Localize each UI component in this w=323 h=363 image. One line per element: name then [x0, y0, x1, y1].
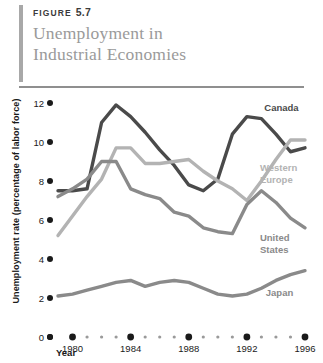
y-tick-label: 0 — [39, 332, 44, 343]
x-tick-dot-major — [243, 334, 250, 341]
x-tick-dot-minor — [274, 335, 277, 338]
x-tick-dot-minor — [202, 335, 205, 338]
series-labels: CanadaWesternEuropeUnitedStatesJapan — [260, 102, 299, 298]
series-label-canada: Canada — [264, 102, 299, 113]
y-axis-ticks: 024681012 — [33, 98, 53, 343]
figure-header: FIGURE5.7 Unemployment in Industrial Eco… — [0, 0, 323, 86]
x-tick-dot-minor — [115, 335, 118, 338]
x-tick-dot-minor — [216, 335, 219, 338]
x-tick-dot-minor — [100, 335, 103, 338]
y-tick-label: 10 — [33, 137, 44, 148]
series-label-united-states-line2: States — [260, 244, 289, 255]
x-tick-label: 1988 — [178, 343, 199, 354]
figure-title-line-1: Unemployment in — [33, 23, 313, 44]
series-group — [58, 105, 305, 296]
x-axis-ticks: 19801984198819921996 — [47, 334, 316, 354]
x-tick-dot-minor — [158, 335, 161, 338]
y-tick-dot — [47, 139, 53, 145]
figure-caption-line: FIGURE5.7 — [33, 6, 313, 19]
y-tick-dot — [47, 100, 53, 106]
y-tick-label: 12 — [33, 98, 44, 109]
y-tick-label: 8 — [39, 176, 44, 187]
y-tick-dot — [47, 217, 53, 223]
figure-root: FIGURE5.7 Unemployment in Industrial Eco… — [0, 0, 323, 363]
figure-label: FIGURE — [33, 8, 72, 18]
x-tick-label: 1984 — [120, 343, 141, 354]
y-tick-dot — [47, 295, 53, 301]
header-text-block: FIGURE5.7 Unemployment in Industrial Eco… — [33, 6, 313, 65]
x-tick-dot-minor — [144, 335, 147, 338]
series-label-japan: Japan — [266, 287, 294, 298]
x-tick-label: 1996 — [294, 343, 315, 354]
x-tick-dot-major — [69, 334, 76, 341]
x-tick-label: 1992 — [236, 343, 257, 354]
series-label-western-europe: Western — [260, 162, 298, 173]
line-chart-svg: 024681012 19801984198819921996 CanadaWes… — [0, 88, 323, 363]
chart-area: Unemployment rate (percentage of labor f… — [0, 88, 323, 363]
series-label-western-europe-line2: Europe — [260, 174, 293, 185]
y-tick-label: 2 — [39, 293, 44, 304]
x-tick-dot-major — [302, 334, 309, 341]
y-tick-dot — [47, 256, 53, 262]
y-tick-label: 6 — [39, 215, 44, 226]
header-accent-bar — [19, 5, 23, 82]
x-tick-dot-minor — [173, 335, 176, 338]
x-tick-dot-major — [127, 334, 134, 341]
series-label-united-states: United — [260, 232, 290, 243]
x-tick-dot-minor — [260, 335, 263, 338]
figure-number: 5.7 — [76, 6, 92, 18]
x-tick-dot-minor — [289, 335, 292, 338]
x-tick-dot-minor — [231, 335, 234, 338]
y-tick-label: 4 — [39, 254, 44, 265]
x-axis-title: Year — [56, 347, 76, 358]
x-tick-dot-major — [185, 334, 192, 341]
figure-title-line-2: Industrial Economies — [33, 44, 313, 65]
y-tick-dot — [47, 178, 53, 184]
axis-origin-dot — [47, 334, 53, 340]
x-tick-dot-minor — [85, 335, 88, 338]
